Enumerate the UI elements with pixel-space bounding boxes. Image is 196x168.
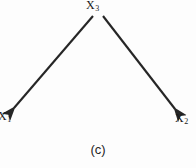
causal-diagram-figure: X3 X1 X2 (c) [0,0,196,168]
node-x2-subscript: 2 [184,117,189,126]
node-x3-variable: X [86,0,95,12]
edge-x3-to-x2 [103,16,175,109]
node-x2-variable: X [175,111,184,125]
edge-x3-to-x1 [14,16,93,108]
node-label-x3: X3 [86,0,99,13]
figure-caption: (c) [0,143,196,156]
node-x1-subscript: 1 [7,115,12,124]
node-label-x1: X1 [0,110,11,124]
node-label-x2: X2 [175,112,188,126]
node-x3-subscript: 3 [95,4,100,13]
node-x1-variable: X [0,109,7,123]
